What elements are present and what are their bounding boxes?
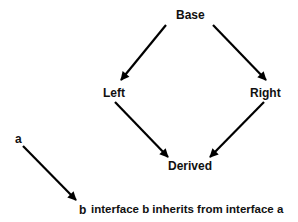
legend-to-label: b	[79, 204, 86, 216]
node-derived: Derived	[168, 160, 212, 172]
legend-description: interface b inherits from interface a	[91, 204, 283, 216]
edge-right-derived	[210, 102, 264, 157]
legend-arrow	[23, 146, 76, 200]
node-left: Left	[103, 87, 125, 99]
node-base: Base	[176, 9, 205, 21]
edge-base-left	[121, 25, 166, 80]
edge-base-right	[213, 25, 266, 80]
edge-left-derived	[115, 102, 168, 157]
diagram-canvas	[0, 0, 298, 222]
node-right: Right	[250, 87, 281, 99]
legend-from-label: a	[15, 133, 22, 145]
